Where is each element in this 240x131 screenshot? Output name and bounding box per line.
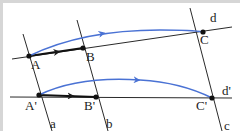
label-c-point: C [200, 32, 209, 47]
label-c-prime-point: C' [196, 98, 207, 113]
point-a-prime [36, 92, 41, 97]
label-line-d-prime: d' [222, 83, 231, 98]
label-line-c: c [224, 118, 230, 131]
label-line-b: b [106, 116, 113, 131]
label-a-prime-point: A' [25, 98, 37, 113]
point-b [80, 45, 85, 50]
diagram-canvas: A B C d A' B' C' d' a b c [0, 0, 240, 131]
label-line-d: d [210, 10, 217, 25]
point-c-prime [209, 95, 214, 100]
label-b-point: B [86, 49, 95, 64]
line-b [77, 20, 108, 131]
label-a-point: A [31, 57, 41, 72]
label-b-prime-point: B' [84, 98, 95, 113]
label-line-a: a [50, 116, 56, 131]
